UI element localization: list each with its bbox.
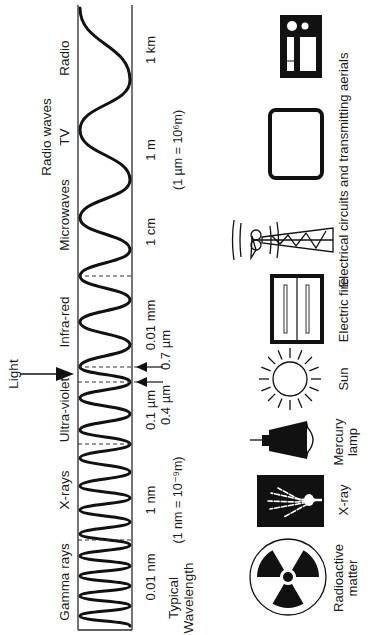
unit-notes: (1 µm = 10⁶m) (1 nm = 10⁻⁹m) Typical Wav… — [166, 110, 196, 633]
violet-limit-arrowhead-icon — [136, 377, 147, 387]
wavelength-visible-violet: 0.4 µm — [158, 385, 173, 425]
label-xray: X-ray — [336, 484, 351, 516]
label-radioactive-line1: Radioactive — [331, 544, 346, 612]
label-radio: Radio — [57, 40, 72, 75]
sun-icon — [259, 348, 321, 410]
typical-wavelength-line2: Wavelength — [181, 563, 196, 634]
label-ultraviolet: Ultra-violet — [57, 377, 72, 442]
wavelength-infrared: 0.01 mm — [143, 300, 158, 351]
label-infrared: Infra-red — [57, 296, 72, 347]
label-radioactive-line2: matter — [345, 559, 360, 597]
spectrum-svg: Radio TV Radio waves Microwaves Infra-re… — [0, 0, 373, 635]
radiation-trefoil-icon — [250, 539, 326, 615]
wavelength-radio: 1 km — [143, 36, 158, 64]
mercury-lamp-icon — [250, 421, 313, 459]
wavelength-gamma: 0.01 nm — [143, 554, 158, 601]
typical-wavelength-line1: Typical — [166, 577, 181, 619]
label-microwaves: Microwaves — [57, 179, 72, 251]
label-xrays: X-rays — [57, 470, 72, 509]
label-gamma-rays: Gamma rays — [57, 543, 72, 621]
radio-set-icon — [280, 15, 322, 78]
label-electric-fire: Electric fire — [336, 278, 351, 342]
transmitting-aerial-icon — [233, 220, 334, 260]
wavelength-microwaves: 1 cm — [143, 218, 158, 246]
label-sun: Sun — [336, 367, 351, 390]
wavelength-labels: 1 km 1 m 1 cm 0.01 mm 0.1 µm 0.7 µm 0.4 … — [143, 36, 173, 601]
electric-fire-icon — [272, 276, 322, 342]
label-tv: TV — [57, 128, 72, 145]
wavelength-xrays: 1 nm — [143, 486, 158, 515]
wavelength-visible-red: 0.7 µm — [158, 330, 173, 370]
red-limit-arrowhead-icon — [136, 362, 147, 372]
wavelength-ultraviolet: 0.1 µm — [143, 390, 158, 430]
xray-hand-icon — [257, 475, 324, 527]
label-light: Light — [6, 359, 21, 389]
label-electrical-circuits: Electrical circuits and transmitting aer… — [336, 52, 351, 287]
label-mercury-line2: lamp — [345, 428, 360, 456]
wavelength-tv: 1 m — [143, 139, 158, 161]
label-mercury-line1: Mercury — [331, 418, 346, 465]
wave-curve — [80, 8, 130, 626]
em-spectrum-diagram: Radio TV Radio waves Microwaves Infra-re… — [0, 0, 373, 635]
band-labels: Radio TV Radio waves Microwaves Infra-re… — [39, 40, 72, 620]
note-micrometre: (1 µm = 10⁶m) — [171, 110, 185, 190]
source-labels: Electrical circuits and transmitting aer… — [331, 52, 360, 612]
television-icon — [270, 110, 322, 178]
label-radio-waves: Radio waves — [39, 98, 54, 176]
wave-band — [78, 5, 132, 630]
note-nanometre: (1 nm = 10⁻⁹m) — [171, 456, 185, 543]
